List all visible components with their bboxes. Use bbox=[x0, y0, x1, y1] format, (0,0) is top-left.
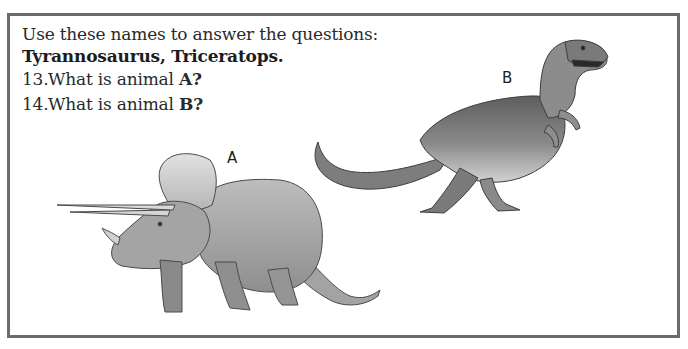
dinosaur-illustrations: B A bbox=[0, 0, 688, 349]
label-b: B bbox=[502, 69, 512, 87]
label-a: A bbox=[227, 149, 238, 167]
tyrannosaurus-illustration bbox=[315, 40, 608, 213]
